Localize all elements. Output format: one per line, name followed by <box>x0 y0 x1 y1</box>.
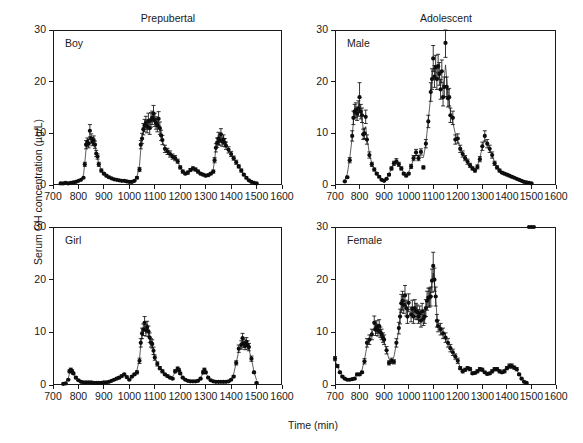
x-tick-mark <box>231 185 232 189</box>
x-tick-mark <box>408 185 409 189</box>
y-tick-label: 10 <box>295 126 328 138</box>
x-tick-mark <box>154 185 155 189</box>
x-tick-label: 1600 <box>536 390 576 402</box>
plot-area-girl <box>53 227 282 385</box>
y-tick-label: 0 <box>295 378 328 390</box>
x-tick-mark <box>205 385 206 389</box>
y-tick-mark <box>49 332 53 333</box>
x-tick-mark <box>433 385 434 389</box>
plot-area-boy <box>53 30 282 185</box>
y-tick-mark <box>331 133 335 134</box>
x-tick-mark <box>335 385 336 389</box>
y-tick-mark <box>331 279 335 280</box>
y-tick-mark <box>49 30 53 31</box>
x-tick-mark <box>129 385 130 389</box>
x-tick-mark <box>482 385 483 389</box>
y-tick-label: 30 <box>13 220 46 232</box>
column-title-adolescent: Adolescent <box>381 12 511 24</box>
y-tick-mark <box>49 81 53 82</box>
y-tick-label: 20 <box>13 75 46 87</box>
x-tick-mark <box>531 385 532 389</box>
x-tick-mark <box>359 185 360 189</box>
plot-area-female <box>335 227 556 385</box>
x-tick-mark <box>78 385 79 389</box>
x-tick-mark <box>154 385 155 389</box>
x-tick-mark <box>408 385 409 389</box>
y-tick-label: 30 <box>295 23 328 35</box>
y-tick-label: 0 <box>295 178 328 190</box>
y-tick-mark <box>331 30 335 31</box>
x-tick-label: 1600 <box>536 190 576 202</box>
y-tick-label: 0 <box>13 378 46 390</box>
column-title-prepubertal: Prepubertal <box>103 12 233 24</box>
x-tick-label: 1600 <box>262 390 302 402</box>
x-tick-mark <box>180 185 181 189</box>
x-tick-mark <box>384 385 385 389</box>
x-tick-mark <box>129 185 130 189</box>
x-tick-mark <box>282 185 283 189</box>
y-tick-label: 0 <box>13 178 46 190</box>
plot-area-male <box>335 30 556 185</box>
y-tick-mark <box>49 133 53 134</box>
y-tick-label: 30 <box>13 23 46 35</box>
x-axis-label: Time (min) <box>233 419 393 431</box>
y-tick-mark <box>49 227 53 228</box>
x-tick-mark <box>506 185 507 189</box>
x-tick-mark <box>384 185 385 189</box>
x-tick-mark <box>53 185 54 189</box>
x-tick-mark <box>482 185 483 189</box>
x-tick-label: 1600 <box>262 190 302 202</box>
x-tick-mark <box>556 185 557 189</box>
x-tick-mark <box>457 185 458 189</box>
x-tick-mark <box>78 185 79 189</box>
x-tick-mark <box>457 385 458 389</box>
x-tick-mark <box>506 385 507 389</box>
x-tick-mark <box>103 185 104 189</box>
x-tick-mark <box>531 185 532 189</box>
figure-container: Serum GH concentration (µg/L) Time (min)… <box>0 0 583 443</box>
y-tick-label: 10 <box>13 325 46 337</box>
y-tick-label: 10 <box>295 325 328 337</box>
y-tick-mark <box>331 81 335 82</box>
x-tick-mark <box>180 385 181 389</box>
y-tick-label: 30 <box>295 220 328 232</box>
x-tick-mark <box>335 185 336 189</box>
x-tick-mark <box>53 385 54 389</box>
y-tick-mark <box>331 332 335 333</box>
x-tick-mark <box>205 185 206 189</box>
y-tick-mark <box>49 279 53 280</box>
x-tick-mark <box>231 385 232 389</box>
x-tick-mark <box>103 385 104 389</box>
x-tick-mark <box>359 385 360 389</box>
x-tick-mark <box>256 385 257 389</box>
y-tick-label: 10 <box>13 126 46 138</box>
y-tick-label: 20 <box>295 273 328 285</box>
x-tick-mark <box>433 185 434 189</box>
y-tick-label: 20 <box>295 75 328 87</box>
x-tick-mark <box>556 385 557 389</box>
y-tick-label: 20 <box>13 273 46 285</box>
x-tick-mark <box>256 185 257 189</box>
y-tick-mark <box>331 227 335 228</box>
x-tick-mark <box>282 385 283 389</box>
